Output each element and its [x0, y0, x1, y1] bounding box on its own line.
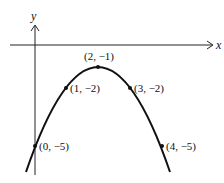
point-label-1: (1, −2) [70, 82, 100, 95]
point-label-4: (4, −5) [166, 140, 196, 153]
y-axis-label: y [30, 9, 37, 23]
point-label-vertex: (2, −1) [84, 50, 114, 63]
point-3: (3, −2) [128, 82, 164, 95]
point-0: (0, −5) [33, 140, 69, 153]
parabola-diagram: x y (2, −1) (1, −2) (3, −2) (0, −5) (4, … [0, 0, 224, 183]
point-label-3: (3, −2) [134, 82, 164, 95]
x-axis-label: x [215, 38, 222, 52]
point-label-0: (0, −5) [39, 140, 69, 153]
point-1: (1, −2) [64, 82, 100, 95]
x-axis: x [10, 38, 222, 52]
point-4: (4, −5) [160, 140, 196, 153]
point-vertex: (2, −1) [84, 50, 114, 69]
